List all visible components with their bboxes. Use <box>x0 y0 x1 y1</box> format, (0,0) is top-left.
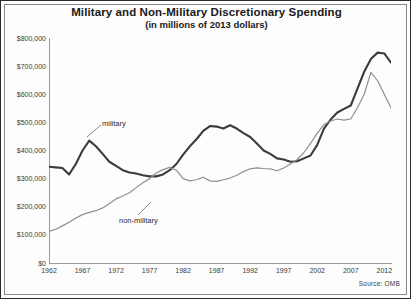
y-axis-tick-labels: $800,000$700,000$600,000$500,000$400,000… <box>1 1 46 299</box>
y-tick-label: $800,000 <box>2 35 46 42</box>
x-tick-label: 1972 <box>99 267 133 275</box>
y-tick-label: $600,000 <box>2 91 46 98</box>
plot-area <box>49 38 391 263</box>
x-tick-label: 1967 <box>66 267 100 275</box>
source-note: Source: OMB <box>359 280 400 287</box>
x-axis-tick-labels: 1962196719721977198219871992199720022007… <box>1 267 411 281</box>
series-line-military <box>49 53 391 177</box>
x-tick-label: 2012 <box>367 267 401 275</box>
y-tick-label: $0 <box>2 260 46 267</box>
title-block: Military and Non-Military Discretionary … <box>1 5 411 31</box>
series-label-military: military <box>102 119 126 128</box>
y-tick-label: $400,000 <box>2 147 46 154</box>
y-tick-label: $500,000 <box>2 119 46 126</box>
x-tick-label: 1987 <box>200 267 234 275</box>
series-label-non-military: non-military <box>119 216 158 225</box>
chart-subtitle: (in millions of 2013 dollars) <box>1 19 411 31</box>
x-tick-label: 2007 <box>334 267 368 275</box>
x-tick-label: 1962 <box>32 267 66 275</box>
x-tick-label: 1992 <box>233 267 267 275</box>
chart-screenshot: Military and Non-Military Discretionary … <box>0 0 411 299</box>
x-tick-label: 1977 <box>133 267 167 275</box>
x-axis-line <box>49 263 392 264</box>
x-tick-label: 1982 <box>166 267 200 275</box>
y-tick-label: $200,000 <box>2 203 46 210</box>
chart-title: Military and Non-Military Discretionary … <box>1 5 411 19</box>
x-tick-label: 1997 <box>267 267 301 275</box>
y-tick-label: $100,000 <box>2 231 46 238</box>
y-tick-label: $700,000 <box>2 63 46 70</box>
series-svg <box>49 38 391 263</box>
x-tick-label: 2002 <box>300 267 334 275</box>
y-tick-label: $300,000 <box>2 175 46 182</box>
